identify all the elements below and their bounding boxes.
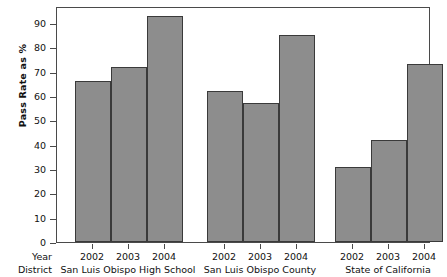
bar [147,16,183,242]
x-axis-tick [388,244,389,249]
x-axis-tick [424,244,425,249]
y-axis-tick-label: 30 [0,165,46,174]
y-axis-tick-label: 50 [0,116,46,125]
x-axis-tick [92,244,93,249]
x-axis-year-label: 2003 [244,251,276,262]
y-axis-tick-label: 60 [0,92,46,101]
x-axis-tick [164,244,165,249]
x-axis-year-label: 2002 [336,251,368,262]
x-axis-year-label: 2004 [148,251,180,262]
y-axis-tick-label: 40 [0,141,46,150]
x-axis-year-label: 2004 [280,251,312,262]
bar [207,91,243,242]
x-axis-year-label: 2002 [76,251,108,262]
x-axis-tick [352,244,353,249]
y-axis-tick-label: 0 [0,238,46,247]
plot-area [56,7,430,243]
x-axis-group-label: State of California [308,264,447,275]
x-axis-year-label: 2003 [372,251,404,262]
bar [371,140,407,242]
bar [111,67,147,242]
bar [75,81,111,242]
y-axis-tick-label: 20 [0,189,46,198]
y-axis-tick-label: 10 [0,214,46,223]
axis-row-label-district: District [0,264,52,275]
x-axis-year-label: 2003 [112,251,144,262]
axis-row-label-year: Year [0,251,52,262]
y-axis-tick-label: 90 [0,19,46,28]
y-axis-tick-label: 70 [0,68,46,77]
x-axis-tick [224,244,225,249]
bar [335,167,371,242]
x-axis-year-label: 2002 [208,251,240,262]
x-axis-tick [296,244,297,249]
bar [243,103,279,242]
y-axis-tick [50,243,56,244]
bar [279,35,315,242]
x-axis-year-label: 2004 [408,251,440,262]
x-axis-tick [260,244,261,249]
bars-layer [57,8,429,242]
bar [407,64,443,242]
y-axis-tick-label: 80 [0,43,46,52]
x-axis-tick [128,244,129,249]
